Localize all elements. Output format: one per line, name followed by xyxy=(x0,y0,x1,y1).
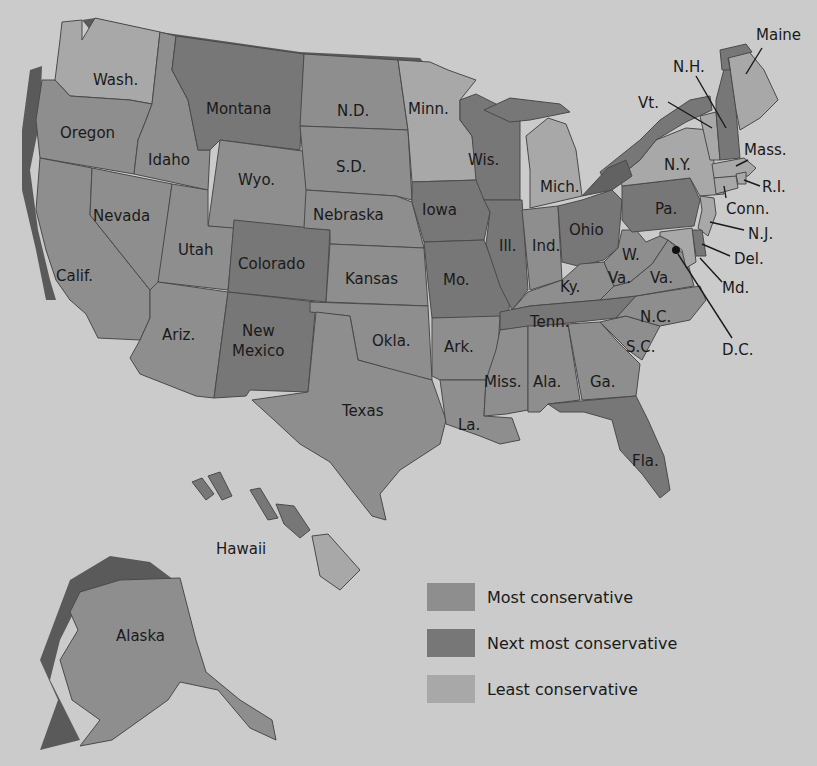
legend: Most conservative Next most conservative… xyxy=(427,583,677,721)
label-nd: N.D. xyxy=(337,102,369,120)
state-fla[interactable] xyxy=(548,396,670,498)
legend-item-next: Next most conservative xyxy=(427,629,677,657)
legend-label-least: Least conservative xyxy=(487,680,638,699)
legend-label-next: Next most conservative xyxy=(487,634,677,653)
state-hawaii-big[interactable] xyxy=(312,534,360,590)
state-hawaii-molokai[interactable] xyxy=(250,488,278,520)
label-wyo: Wyo. xyxy=(238,171,275,189)
arrow-nj xyxy=(710,222,744,230)
label-del: Del. xyxy=(734,250,764,268)
label-dc: D.C. xyxy=(722,341,754,359)
label-oregon: Oregon xyxy=(60,124,115,142)
label-mich: Mich. xyxy=(540,178,580,196)
label-ala: Ala. xyxy=(533,373,561,391)
label-wis: Wis. xyxy=(468,151,499,169)
us-conservatism-map: Wash. Oregon Idaho Montana N.D. Minn. Wy… xyxy=(0,0,817,766)
legend-label-most: Most conservative xyxy=(487,588,633,607)
label-nebraska: Nebraska xyxy=(313,206,384,224)
legend-item-least: Least conservative xyxy=(427,675,677,703)
label-iowa: Iowa xyxy=(422,201,457,219)
arrow-md xyxy=(700,258,722,282)
label-vt: Vt. xyxy=(638,94,659,112)
label-kansas: Kansas xyxy=(345,270,398,288)
state-mass[interactable] xyxy=(712,158,756,178)
label-okla: Okla. xyxy=(372,332,411,350)
label-wva2: Va. xyxy=(608,269,631,287)
label-newmexico1: New xyxy=(242,322,275,340)
label-ny: N.Y. xyxy=(664,156,691,174)
label-texas: Texas xyxy=(341,402,384,420)
legend-swatch-least xyxy=(427,675,475,703)
label-nc: N.C. xyxy=(640,308,671,326)
label-nj: N.J. xyxy=(748,225,773,243)
dc-marker[interactable] xyxy=(672,246,680,254)
map-canvas: Wash. Oregon Idaho Montana N.D. Minn. Wy… xyxy=(0,0,817,766)
label-colorado: Colorado xyxy=(238,255,305,273)
legend-swatch-next xyxy=(427,629,475,657)
label-conn: Conn. xyxy=(726,200,769,218)
label-tenn: Tenn. xyxy=(529,313,570,331)
label-fla: Fla. xyxy=(632,452,659,470)
label-la: La. xyxy=(458,416,480,434)
label-montana: Montana xyxy=(206,100,271,118)
label-nh: N.H. xyxy=(673,58,705,76)
label-pa: Pa. xyxy=(655,200,677,218)
label-wva1: W. xyxy=(622,246,640,264)
label-va: Va. xyxy=(650,269,673,287)
label-ohio: Ohio xyxy=(569,221,604,239)
label-ri: R.I. xyxy=(762,178,786,196)
label-nevada: Nevada xyxy=(93,207,150,225)
label-md: Md. xyxy=(722,279,749,297)
label-minn: Minn. xyxy=(408,100,449,118)
state-hawaii-maui[interactable] xyxy=(276,504,310,538)
state-conn[interactable] xyxy=(714,176,738,194)
label-idaho: Idaho xyxy=(148,151,190,169)
label-wash: Wash. xyxy=(93,71,138,89)
label-ky: Ky. xyxy=(560,278,580,296)
label-miss: Miss. xyxy=(484,373,522,391)
label-mass: Mass. xyxy=(744,141,787,159)
label-ill: Ill. xyxy=(499,237,517,255)
label-maine: Maine xyxy=(756,26,801,44)
state-alaska[interactable] xyxy=(60,578,276,746)
label-ariz: Ariz. xyxy=(162,326,195,344)
state-wash[interactable] xyxy=(55,18,160,104)
label-hawaii: Hawaii xyxy=(216,540,266,558)
label-alaska: Alaska xyxy=(116,627,165,645)
legend-item-most: Most conservative xyxy=(427,583,677,611)
label-utah: Utah xyxy=(178,241,214,259)
label-sd: S.D. xyxy=(336,158,367,176)
legend-swatch-most xyxy=(427,583,475,611)
label-sc: S.C. xyxy=(626,338,656,356)
label-ind: Ind. xyxy=(532,237,560,255)
label-ga: Ga. xyxy=(590,373,616,391)
label-mo: Mo. xyxy=(443,271,470,289)
label-ark: Ark. xyxy=(444,338,474,356)
label-calif: Calif. xyxy=(56,267,93,285)
label-newmexico2: Mexico xyxy=(232,342,284,360)
